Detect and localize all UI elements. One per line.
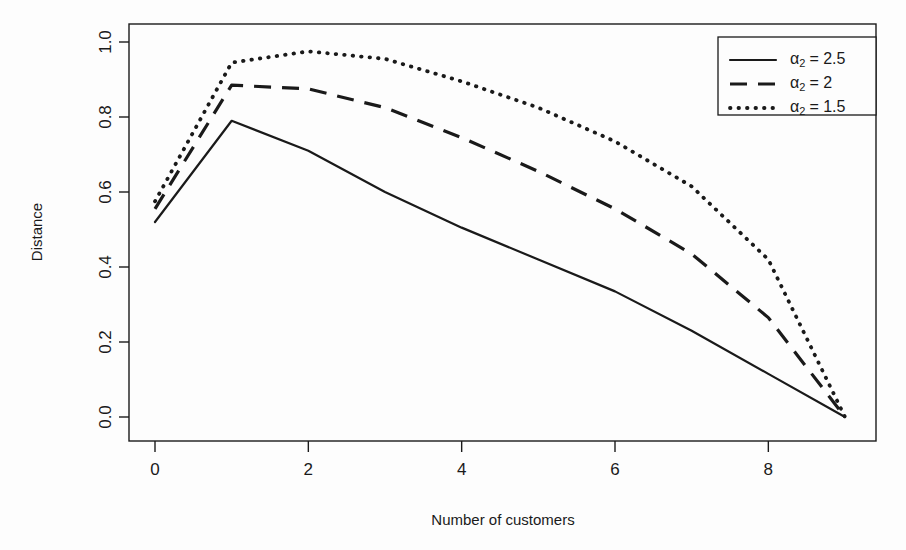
y-axis-title: Distance	[28, 203, 45, 261]
series-line-2	[155, 85, 845, 417]
chart-figure: 0.00.20.40.60.81.0 02468 Distance Number…	[0, 0, 906, 550]
x-tick-label: 2	[304, 460, 313, 479]
y-tick-label: 1.0	[96, 30, 115, 54]
legend-alpha-value: = 1.5	[809, 98, 845, 115]
y-tick-label: 0.0	[96, 405, 115, 429]
y-tick-label: 0.6	[96, 180, 115, 204]
legend-alpha-symbol: α	[790, 98, 799, 115]
series-line-1	[155, 121, 845, 417]
legend-alpha-symbol: α	[790, 50, 799, 67]
legend-label-2: α2= 2	[790, 74, 832, 93]
x-axis-ticks: 02468	[150, 441, 773, 479]
x-tick-label: 4	[457, 460, 466, 479]
legend-alpha-subscript: 2	[799, 81, 805, 93]
legend-label-1: α2= 2.5	[790, 50, 846, 69]
legend-alpha-subscript: 2	[799, 105, 805, 117]
x-tick-label: 8	[764, 460, 773, 479]
y-tick-label: 0.8	[96, 105, 115, 129]
legend-label-3: α2= 1.5	[790, 98, 846, 117]
x-tick-label: 6	[610, 460, 619, 479]
legend-alpha-value: = 2	[809, 74, 832, 91]
x-axis-title: Number of customers	[431, 511, 574, 528]
chart-legend: α2= 2.5α2= 2α2= 1.5	[718, 37, 876, 117]
line-chart: 0.00.20.40.60.81.0 02468 Distance Number…	[0, 0, 906, 550]
legend-alpha-symbol: α	[790, 74, 799, 91]
y-axis-ticks: 0.00.20.40.60.81.0	[96, 30, 129, 429]
x-tick-label: 0	[150, 460, 159, 479]
legend-alpha-subscript: 2	[799, 57, 805, 69]
y-tick-label: 0.2	[96, 330, 115, 354]
y-tick-label: 0.4	[96, 255, 115, 279]
legend-alpha-value: = 2.5	[809, 50, 845, 67]
